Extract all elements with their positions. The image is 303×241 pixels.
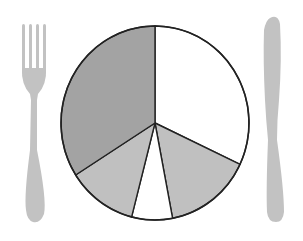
- plate-pie-illustration: [0, 0, 303, 241]
- knife-icon: [264, 17, 284, 222]
- fork-icon: [22, 24, 46, 222]
- pie-chart: [61, 26, 249, 220]
